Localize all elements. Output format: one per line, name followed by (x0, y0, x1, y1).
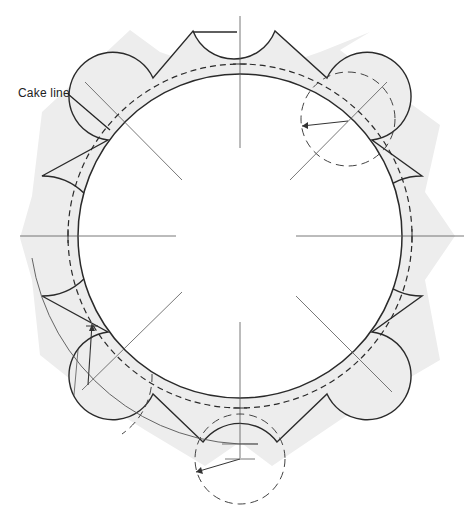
board-outline-precise (42, 31, 422, 442)
cake-line-label: Cake line (18, 86, 70, 100)
arrowhead-s (196, 467, 203, 474)
cake-template-diagram (0, 0, 472, 528)
